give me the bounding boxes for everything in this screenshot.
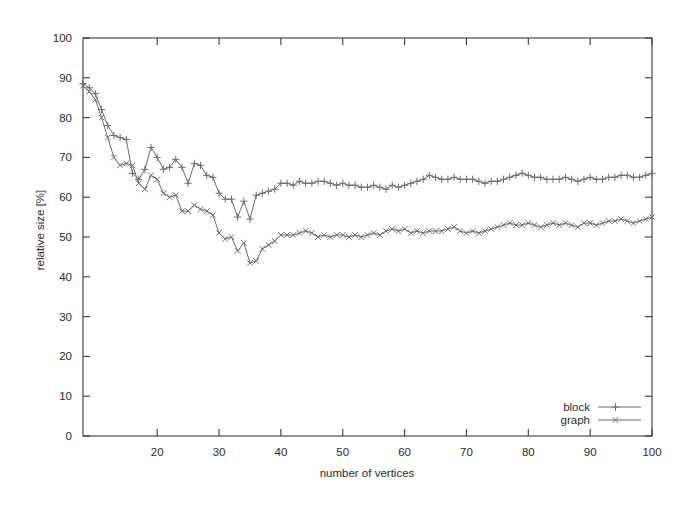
y-tick-label: 80: [59, 112, 72, 124]
x-tick-label: 80: [522, 446, 535, 458]
legend-label-graph: graph: [561, 414, 590, 426]
x-tick-label: 40: [275, 446, 288, 458]
chart-background: [0, 0, 697, 505]
x-tick-label: 30: [213, 446, 226, 458]
x-axis-title: number of vertices: [320, 467, 415, 479]
y-tick-label: 100: [53, 32, 72, 44]
relative-size-line-chart: 0102030405060708090100 20304050607080901…: [0, 0, 697, 505]
x-tick-label: 70: [460, 446, 473, 458]
y-tick-label: 10: [59, 390, 72, 402]
x-tick-label: 60: [398, 446, 411, 458]
x-tick-label: 50: [336, 446, 349, 458]
y-tick-label: 70: [59, 151, 72, 163]
y-tick-label: 40: [59, 271, 72, 283]
x-tick-label: 20: [151, 446, 164, 458]
x-tick-label: 90: [584, 446, 597, 458]
y-tick-label: 50: [59, 231, 72, 243]
y-tick-label: 30: [59, 311, 72, 323]
y-tick-label: 0: [66, 430, 72, 442]
y-axis-title: relative size [%]: [34, 190, 46, 271]
y-tick-label: 20: [59, 350, 72, 362]
y-tick-label: 60: [59, 191, 72, 203]
chart-figure: 0102030405060708090100 20304050607080901…: [0, 0, 697, 505]
y-tick-label: 90: [59, 72, 72, 84]
legend-label-block: block: [563, 401, 590, 413]
x-tick-label: 100: [642, 446, 661, 458]
